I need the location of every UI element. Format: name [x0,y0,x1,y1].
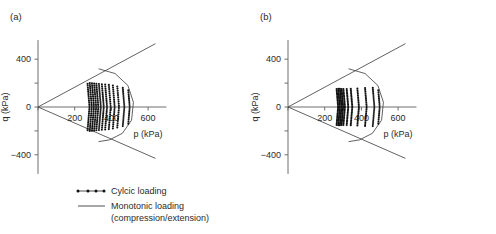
cyclic-data-point [109,118,111,120]
cyclic-data-point [102,99,104,101]
cyclic-data-point [88,99,90,101]
cyclic-data-point [96,96,98,98]
stress-path-figure: (a)−4000400200400600p (kPa)q (kPa) (b)−4… [0,0,496,234]
cyclic-data-point [93,109,95,111]
cyclic-data-point [113,113,115,115]
cyclic-data-point [117,98,119,100]
cyclic-legend-label: Cylcic loading [111,186,167,196]
cyclic-data-point [122,117,124,119]
cyclic-data-point [108,126,110,128]
cyclic-data-point [117,118,119,120]
cyclic-data-point [117,114,119,116]
cyclic-data-point [93,86,95,88]
cyclic-data-point [123,103,125,105]
y-axis-title: q (kPa) [0,92,10,121]
cyclic-data-point [373,107,375,109]
cyclic-data-point [366,107,368,109]
cyclic-data-point [113,97,115,99]
cyclic-data-point [95,101,97,103]
cyclic-data-point [377,123,379,125]
cyclic-data-point [97,101,99,103]
cyclic-data-point [113,99,115,101]
cyclic-data-point [89,90,91,92]
cyclic-data-point [123,107,125,109]
cyclic-data-point [96,116,98,118]
cyclic-data-point [127,121,129,123]
cyclic-data-point [122,87,124,89]
cyclic-data-point [97,114,99,116]
cyclic-data-point [365,109,367,111]
cyclic-data-point [128,111,130,113]
cyclic-data-point [113,101,115,103]
panel-a: (a)−4000400200400600p (kPa)q (kPa) [0,11,166,174]
cyclic-data-point [128,113,130,115]
cyclic-data-point [96,92,98,94]
cyclic-data-point [102,97,104,99]
cyclic-data-point [96,86,98,88]
cyclic-data-point [96,90,98,92]
cyclic-data-point [93,83,95,85]
cyclic-data-point [118,111,120,113]
cyclic-data-point [114,105,116,107]
cyclic-data-point [97,111,99,113]
cyclic-data-point [105,119,107,121]
figure-legend: Cylcic loadingMonotonic loading(compress… [77,186,210,223]
cyclic-data-point [98,123,100,125]
cyclic-data-point [86,129,88,131]
cyclic-data-point [365,100,367,102]
cyclic-data-point [97,99,99,101]
cyclic-data-point [365,116,367,118]
cyclic-data-point [92,96,94,98]
cyclic-data-point [99,101,101,103]
monotonic-legend-sublabel: (compression/extension) [111,213,209,223]
cyclic-data-point [117,120,119,122]
cyclic-data-point [88,107,90,109]
cyclic-data-point [365,110,367,112]
cyclic-data-point [116,124,118,126]
cyclic-data-point [88,98,90,100]
cyclic-data-point [87,92,89,94]
cyclic-data-point [104,128,106,130]
cyclic-data-point [95,113,97,115]
cyclic-data-point [123,101,125,103]
cyclic-data-point [108,86,110,88]
cyclic-data-point [109,94,111,96]
cyclic-data-point [364,121,366,123]
cyclic-data-point [87,124,89,126]
cyclic-data-point [113,119,115,121]
cyclic-data-point [372,93,374,95]
cyclic-data-point [122,121,124,123]
cyclic-data-point [116,88,118,90]
cyclic-data-point [94,122,96,124]
cyclic-data-point [106,109,108,111]
cyclic-data-point [92,120,94,122]
cyclic-data-point [98,127,100,129]
cyclic-data-point [95,99,97,101]
cyclic-data-point [104,126,106,128]
cyclic-data-point [366,105,368,107]
cyclic-data-point [378,113,380,115]
cyclic-data-point [378,119,380,121]
cyclic-data-point [108,84,110,86]
cyclic-data-point [372,125,374,127]
cyclic-data-point [100,109,102,111]
cyclic-data-point [372,95,374,97]
cyclic-data-point [108,120,110,122]
cyclic-data-point [95,129,97,131]
cyclic-data-point [365,118,367,120]
cyclic-data-point [97,103,99,105]
cyclic-data-point [117,90,119,92]
cyclic-data-point [105,93,107,95]
cyclic-data-point [106,111,108,113]
cyclic-data-point [90,113,92,115]
cyclic-data-point [87,86,89,88]
cyclic-data-point [116,127,118,129]
cyclic-data-point [364,91,366,93]
cyclic-data-point [95,105,97,107]
cyclic-data-point [109,111,111,113]
y-axis-title: q (kPa) [250,92,260,121]
cyclic-data-point [372,89,374,91]
cyclic-data-point [112,127,114,129]
cyclic-data-point [103,107,105,109]
cyclic-data-point [342,88,344,90]
